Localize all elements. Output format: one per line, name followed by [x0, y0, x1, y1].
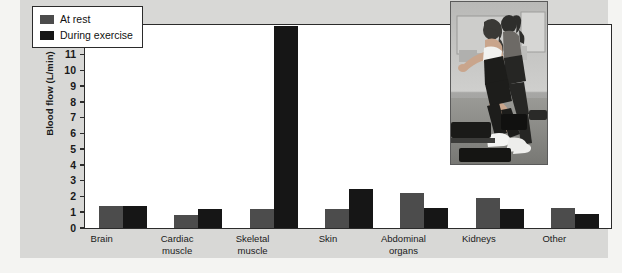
y-axis-tick: 3 — [70, 175, 85, 187]
chart-legend: At rest During exercise — [32, 6, 143, 48]
legend-label-at-rest: At rest — [60, 14, 90, 25]
x-axis-tick-label: Kidneys — [441, 233, 516, 245]
y-axis-tick-label: 10 — [64, 65, 80, 76]
step-aerobics-photo — [450, 1, 548, 165]
bar-during-exercise — [274, 26, 298, 228]
chart-panel: Blood flow (L/min) 012345678910111213 Br… — [20, 0, 608, 258]
y-axis-tick: 6 — [70, 127, 85, 139]
legend-item-at-rest: At rest — [40, 12, 133, 26]
y-axis-tick-label: 6 — [70, 128, 80, 139]
bar-at-rest — [174, 215, 198, 228]
bar-at-rest — [250, 209, 274, 228]
y-axis-tick-label: 1 — [70, 207, 80, 218]
bar-group — [160, 23, 235, 228]
y-axis-tick-label: 3 — [70, 175, 80, 186]
y-axis-tick: 8 — [70, 96, 85, 108]
y-axis-tick-label: 11 — [65, 49, 80, 60]
legend-item-during-exercise: During exercise — [40, 28, 133, 42]
y-axis-tick: 4 — [70, 159, 85, 171]
bar-group — [85, 23, 160, 228]
bar-during-exercise — [500, 209, 524, 228]
y-axis-tick-label: 2 — [70, 191, 80, 202]
bar-at-rest — [551, 208, 575, 229]
bar-at-rest — [476, 198, 500, 228]
bar-group — [236, 23, 311, 228]
photo-illustration-icon — [451, 2, 547, 164]
bar-during-exercise — [424, 208, 448, 229]
y-axis-tick-label: 9 — [70, 81, 80, 92]
y-axis-tick: 11 — [65, 49, 85, 61]
y-axis-tick: 9 — [70, 80, 85, 92]
x-axis-tick-label: Other — [517, 233, 592, 245]
legend-swatch-during-exercise-icon — [40, 31, 54, 40]
bar-during-exercise — [575, 214, 599, 228]
bar-group — [538, 23, 613, 228]
y-axis-tick-label: 4 — [70, 160, 80, 171]
y-axis-tick-label: 0 — [70, 223, 80, 234]
y-axis-tick: 1 — [70, 206, 85, 218]
x-axis-tick-label: Skin — [290, 233, 365, 245]
bar-group — [311, 23, 386, 228]
legend-label-during-exercise: During exercise — [60, 30, 133, 41]
bar-at-rest — [99, 206, 123, 228]
y-axis-tick: 7 — [70, 112, 85, 124]
bar-during-exercise — [349, 189, 373, 228]
bar-during-exercise — [123, 206, 147, 228]
y-axis-tick-label: 7 — [70, 112, 80, 123]
bar-at-rest — [400, 193, 424, 228]
y-axis-tick: 2 — [70, 190, 85, 202]
chart-figure: Blood flow (L/min) 012345678910111213 Br… — [0, 0, 622, 273]
legend-swatch-at-rest-icon — [40, 15, 54, 24]
y-axis-tick: 5 — [70, 143, 85, 155]
y-axis-tick-label: 5 — [70, 144, 80, 155]
x-axis-tick-label: Skeletal muscle — [215, 233, 290, 256]
x-axis-tick-label: Cardiac muscle — [139, 233, 214, 256]
y-axis-tick-label: 8 — [70, 97, 80, 108]
bar-at-rest — [325, 209, 349, 228]
bar-during-exercise — [198, 209, 222, 228]
y-axis-tick: 10 — [64, 64, 85, 76]
x-axis-tick-label: Abdominal organs — [366, 233, 441, 256]
x-axis-tick-label: Brain — [64, 233, 139, 245]
